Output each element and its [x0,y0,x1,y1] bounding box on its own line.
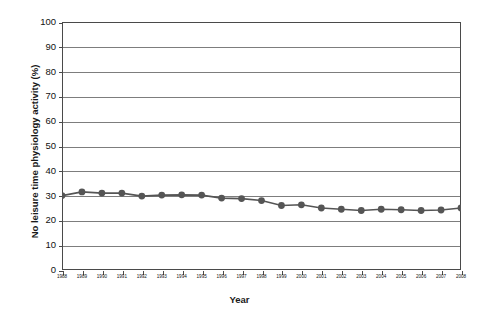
y-axis-title: No leisure time physiology activity (%) [29,22,40,282]
data-point-marker [158,192,165,199]
x-tick-label: 2004 [370,274,392,279]
x-tick-label: 1988 [51,274,73,279]
data-point-marker [238,195,245,202]
data-point-marker [438,207,445,214]
x-tick-label: 1995 [191,274,213,279]
data-series [62,22,461,270]
x-tick-label: 2003 [350,274,372,279]
data-point-marker [458,205,461,212]
x-tick-label: 1992 [131,274,153,279]
x-axis-title: Year [0,294,479,305]
data-point-marker [398,206,405,213]
data-point-marker [358,207,365,214]
data-point-marker [418,207,425,214]
x-tick-label: 1996 [211,274,233,279]
x-tick-label: 1999 [270,274,292,279]
x-tick-label: 1991 [111,274,133,279]
x-tick-label: 2002 [330,274,352,279]
x-tick-label: 1998 [251,274,273,279]
data-point-marker [318,205,325,212]
data-point-marker [118,190,125,197]
data-point-marker [278,202,285,209]
x-tick-label: 2007 [430,274,452,279]
data-point-marker [258,197,265,204]
data-point-marker [62,192,65,199]
x-tick-label: 2001 [310,274,332,279]
data-point-marker [198,192,205,199]
data-point-marker [99,190,106,197]
data-point-marker [178,191,185,198]
x-tick-label: 2005 [390,274,412,279]
data-point-marker [298,201,305,208]
line-chart: 0102030405060708090100 No leisure time p… [0,0,479,319]
x-tick-label: 2006 [410,274,432,279]
x-tick-label: 2000 [290,274,312,279]
x-tick-label: 1990 [91,274,113,279]
x-tick-label: 1994 [171,274,193,279]
data-point-marker [79,188,86,195]
data-point-marker [338,206,345,213]
x-tick-label: 2008 [450,274,472,279]
x-tick-label: 1993 [151,274,173,279]
data-point-marker [138,193,145,200]
x-tick-label: 1989 [71,274,93,279]
data-point-marker [378,206,385,213]
x-tick-label: 1997 [231,274,253,279]
data-point-marker [218,195,225,202]
